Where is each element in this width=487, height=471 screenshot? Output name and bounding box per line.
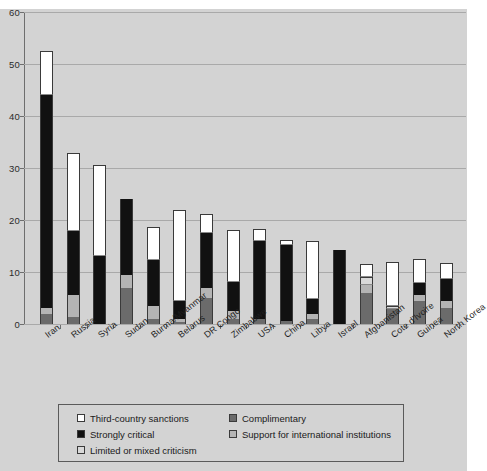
legend-label: Complimentary [242,413,306,424]
bar-segment [360,277,373,285]
bar-segment [200,233,213,288]
chart-legend: Third-country sanctionsComplimentaryStro… [58,404,404,462]
bar-segment [306,299,319,314]
legend-swatch-icon [77,446,85,454]
y-tick-label: 60 [0,7,20,18]
legend-label: Strongly critical [90,429,154,440]
legend-label: Limited or mixed criticism [90,445,197,456]
legend-item[interactable]: Strongly critical [77,429,229,440]
bar-segment [120,288,133,324]
legend-label: Support for international institutions [242,429,391,440]
bar-segment [440,279,453,301]
bar-segment [413,259,426,283]
x-axis-category-labels: IranRussiaSyriaSudanBurma/MyanmarBelarus… [24,326,466,396]
bar-segment [386,262,399,306]
y-tick-label: 30 [0,163,20,174]
bar-russia[interactable] [67,153,80,324]
bar-segment [360,285,373,293]
bar-segment [67,153,80,231]
bar-china[interactable] [280,240,293,324]
bar-north-korea[interactable] [440,263,453,324]
bar-segment [306,241,319,299]
bar-segment [173,210,186,301]
bar-sudan[interactable] [120,199,133,324]
legend-item[interactable]: Limited or mixed criticism [77,445,229,456]
bar-segment [440,301,453,308]
bar-segment [40,95,53,308]
bar-dr-congo[interactable] [200,214,213,324]
bar-segment [120,275,133,287]
bar-segment [200,214,213,232]
bar-segment [147,260,160,307]
legend-label: Third-country sanctions [90,413,189,424]
plot-frame [24,12,466,325]
bar-segment [253,229,266,240]
bar-segment [147,227,160,259]
bar-israel[interactable] [333,250,346,324]
bar-segment [333,250,346,324]
legend-item[interactable]: Support for international institutions [229,429,403,440]
bar-segment [306,319,319,324]
bar-segment [227,230,240,282]
bar-segment [67,317,80,324]
bar-segment [93,256,106,324]
bar-afghanistan[interactable] [360,264,373,324]
bars-layer [24,12,466,325]
y-tick-label: 0 [0,319,20,330]
bar-burma-myanmar[interactable] [147,227,160,324]
bar-segment [40,314,53,324]
bar-segment [120,199,133,275]
bar-segment [67,295,80,317]
bar-libya[interactable] [306,241,319,324]
legend-swatch-icon [77,430,85,438]
legend-item[interactable]: Third-country sanctions [77,413,229,424]
bar-segment [413,283,426,295]
bar-iran[interactable] [40,51,53,324]
y-tick-label: 10 [0,267,20,278]
y-tick-label: 20 [0,215,20,226]
bar-syria[interactable] [93,165,106,324]
bar-segment [40,51,53,96]
legend-swatch-icon [77,414,85,422]
bar-segment [360,293,373,324]
y-tick-label: 40 [0,111,20,122]
bar-segment [147,306,160,318]
y-tick-label: 50 [0,59,20,70]
bar-segment [280,245,293,321]
legend-item[interactable]: Complimentary [229,413,403,424]
bar-segment [67,231,80,295]
top-white-strip [0,0,467,9]
legend-swatch-icon [229,430,237,438]
plot-area [24,12,466,325]
legend-swatch-icon [229,414,237,422]
bar-segment [360,264,373,277]
bar-segment [93,165,106,256]
bar-segment [440,263,453,279]
